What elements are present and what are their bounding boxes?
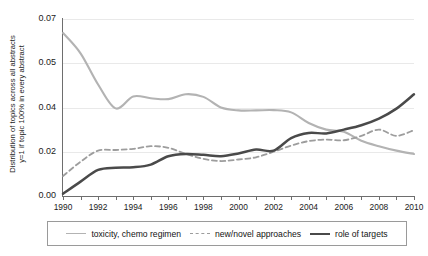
legend-label-role-of-targets: role of targets xyxy=(335,229,388,239)
x-tick-2009 xyxy=(396,196,397,200)
x-tick-1991 xyxy=(81,196,82,200)
plot-area xyxy=(63,19,414,196)
x-tick-label-1992: 1992 xyxy=(78,202,118,212)
x-tick-2010 xyxy=(414,196,415,200)
x-tick-1999 xyxy=(221,196,222,200)
x-tick-label-2006: 2006 xyxy=(324,202,364,212)
legend-item-new-novel-approaches[interactable]: new/novel approaches xyxy=(190,229,301,239)
x-tick-1997 xyxy=(186,196,187,200)
x-tick-1992 xyxy=(98,196,99,200)
legend-label-new-novel: new/novel approaches xyxy=(215,229,301,239)
x-tick-2001 xyxy=(256,196,257,200)
x-tick-2007 xyxy=(361,196,362,200)
x-tick-label-1998: 1998 xyxy=(183,202,223,212)
x-tick-label-2004: 2004 xyxy=(289,202,329,212)
x-tick-1994 xyxy=(133,196,134,200)
x-tick-label-2000: 2000 xyxy=(219,202,259,212)
x-tick-2002 xyxy=(274,196,275,200)
x-tick-label-1990: 1990 xyxy=(43,202,83,212)
y-tick-label-0.05: 0.05 xyxy=(12,57,56,67)
x-tick-label-2008: 2008 xyxy=(359,202,399,212)
x-tick-label-1996: 1996 xyxy=(148,202,188,212)
legend-item-toxicity-chemo-regimen[interactable]: toxicity, chemo regimen xyxy=(66,229,181,239)
x-tick-2005 xyxy=(326,196,327,200)
x-tick-1998 xyxy=(203,196,204,200)
x-tick-2000 xyxy=(239,196,240,200)
y-tick-label-0.02: 0.02 xyxy=(12,146,56,156)
y-tick-label-0.07: 0.07 xyxy=(12,13,56,23)
legend-swatch-icon-toxicity xyxy=(66,233,86,234)
x-tick-2006 xyxy=(344,196,345,200)
series-layer xyxy=(63,19,414,196)
x-tick-1993 xyxy=(116,196,117,200)
x-tick-2004 xyxy=(309,196,310,200)
x-tick-2008 xyxy=(379,196,380,200)
x-tick-2003 xyxy=(291,196,292,200)
x-tick-1995 xyxy=(151,196,152,200)
legend-swatch-icon-new-novel xyxy=(190,233,210,234)
x-tick-label-2010: 2010 xyxy=(394,202,428,212)
y-tick-label-0.00: 0.00 xyxy=(12,190,56,200)
x-tick-1996 xyxy=(168,196,169,200)
legend-label-toxicity: toxicity, chemo regimen xyxy=(91,229,181,239)
legend-item-role-of-targets[interactable]: role of targets xyxy=(310,229,388,239)
y-tick-label-0.04: 0.04 xyxy=(12,102,56,112)
x-tick-label-2002: 2002 xyxy=(254,202,294,212)
x-tick-label-1994: 1994 xyxy=(113,202,153,212)
x-tick-1990 xyxy=(63,196,64,200)
legend-swatch-icon-role-of-targets xyxy=(310,233,330,235)
legend: toxicity, chemo regimen new/novel approa… xyxy=(47,221,407,246)
